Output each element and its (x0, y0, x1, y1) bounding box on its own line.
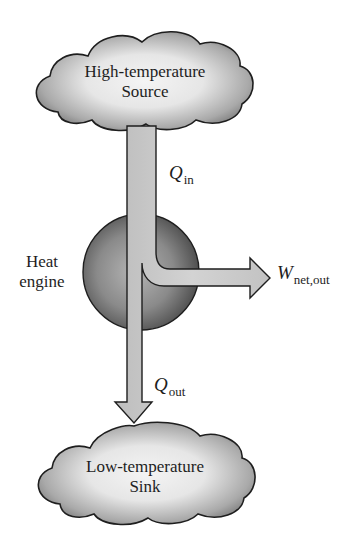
heat-engine-label-line2: engine (12, 272, 72, 292)
q-out-subscript: out (169, 384, 186, 399)
source-label-line1: High-temperature (40, 62, 250, 82)
w-net-symbol: W (277, 262, 293, 283)
heat-engine-label-line1: Heat (12, 252, 72, 272)
heat-engine-label: Heat engine (12, 252, 72, 292)
q-in-label: Qin (169, 162, 194, 184)
source-label-line2: Source (40, 82, 250, 102)
sink-label: Low-temperature Sink (40, 457, 250, 497)
sink-label-line2: Sink (40, 477, 250, 497)
q-out-symbol: Q (154, 374, 168, 395)
sink-label-line1: Low-temperature (40, 457, 250, 477)
q-out-label: Qout (154, 374, 185, 396)
q-in-symbol: Q (169, 162, 183, 183)
q-in-subscript: in (184, 172, 194, 187)
source-label: High-temperature Source (40, 62, 250, 102)
w-net-out-label: Wnet,out (277, 262, 330, 284)
w-net-subscript: net,out (294, 272, 330, 287)
